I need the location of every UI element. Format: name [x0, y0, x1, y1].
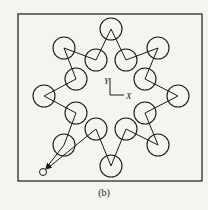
axis-indicator: Y X	[104, 76, 132, 101]
star-path-diagram: Y X	[0, 0, 208, 210]
figure-caption: (b)	[0, 187, 208, 198]
x-axis-label: X	[125, 91, 132, 101]
start-point	[40, 169, 47, 176]
hole-circles	[33, 18, 189, 177]
y-axis-label: Y	[104, 76, 110, 86]
